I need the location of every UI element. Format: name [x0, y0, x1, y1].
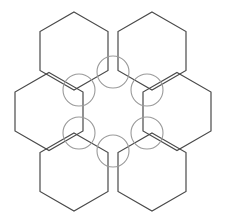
hex-middle-left: Middle left hexagon [15, 73, 83, 151]
hex-middle-right: Middle right hexagon [143, 73, 211, 151]
vertex-circle-layer: Top vertex markerUpper left vertex marke… [63, 56, 163, 167]
circle-top: Top vertex marker [97, 56, 129, 88]
hexagon-layer: Top left hexagonTop right hexagonMiddle … [15, 12, 211, 211]
hexagon-lattice-figure: Top left hexagonTop right hexagonMiddle … [0, 0, 225, 223]
circle-bottom: Bottom vertex marker [97, 135, 129, 167]
lattice-canvas: Top left hexagonTop right hexagonMiddle … [0, 0, 225, 223]
